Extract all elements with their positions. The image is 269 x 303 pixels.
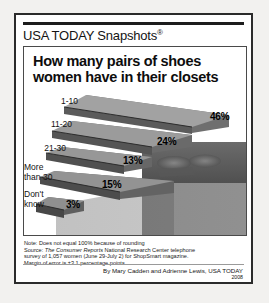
category-label-1-10: 1-10 (26, 97, 78, 107)
category-label-dont-know: Don't know (24, 190, 56, 209)
registered-trademark-icon: ® (157, 28, 163, 37)
value-label-11-20: 24% (157, 136, 176, 147)
value-label-21-30: 13% (123, 155, 142, 166)
source-publication: The Consumer Reports (45, 247, 103, 253)
category-label-more-than-30: More than 30 (24, 163, 60, 182)
brand-title: USA TODAY Snapshots® (23, 27, 247, 44)
source-prefix: Source: (24, 247, 45, 253)
brand-rule (23, 22, 244, 25)
chart-area: 1-10 11-20 21-30 More than 30 Don't know… (24, 87, 246, 236)
byline-year: 2008 (103, 274, 243, 280)
notes-block: Note: Does not equal 100% because of rou… (24, 240, 246, 266)
source-note-line-2: survey of 1,057 women (June 29-July 2) f… (24, 253, 246, 260)
category-label-11-20: 11-20 (24, 120, 72, 130)
page-title: How many pairs of shoes women have in th… (33, 53, 239, 85)
source-rest: National Research Center telephone (103, 247, 195, 253)
rounding-note: Note: Does not equal 100% because of rou… (24, 240, 246, 247)
brand-title-text: USA TODAY Snapshots (23, 28, 157, 43)
byline-credit: By Mary Cadden and Adrienne Lewis, USA T… (103, 267, 243, 274)
chart-panel: How many pairs of shoes women have in th… (23, 46, 247, 236)
value-label-more-than-30: 15% (102, 179, 121, 190)
value-label-dont-know: 3% (66, 199, 80, 210)
value-label-1-10: 46% (210, 111, 229, 122)
category-label-21-30: 21-30 (24, 144, 66, 154)
source-note-line-1: Source: The Consumer Reports National Re… (24, 247, 246, 254)
outer-frame: USA TODAY Snapshots® How many pairs of s… (14, 13, 253, 284)
snapshot-infographic: USA TODAY Snapshots® How many pairs of s… (0, 0, 269, 303)
byline-divider (23, 264, 244, 265)
byline: By Mary Cadden and Adrienne Lewis, USA T… (103, 267, 243, 280)
